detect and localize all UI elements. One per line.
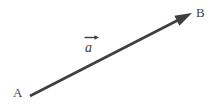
vector-arrow-canvas [0, 0, 218, 110]
point-label-a: A [13, 86, 22, 99]
vector-arrow-group [30, 13, 192, 96]
point-label-b: B [196, 6, 205, 19]
vector-shaft-line [30, 17, 184, 96]
vector-name-label: a [85, 41, 92, 55]
vector-diagram-figure: A B a [0, 0, 218, 110]
vector-arrowhead-icon [174, 13, 192, 26]
vector-name-annotation: a [83, 33, 103, 57]
